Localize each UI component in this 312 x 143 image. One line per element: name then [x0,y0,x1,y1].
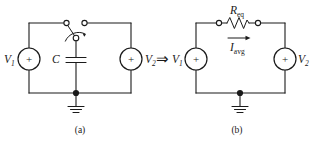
panel-b: Req Iavg + V1 + [172,4,309,136]
implies-arrow: ⇒ [156,51,169,67]
polarity-plus-v1-b: + [193,53,199,65]
current-arrow-head [246,36,251,40]
caption-panel-a: (a) [75,125,86,136]
circuit-diagram-svg: + V1 + V2 C (a) ⇒ [0,0,312,143]
label-v1-b: V1 [172,53,183,68]
caption-panel-b: (b) [231,125,242,136]
resistor-left-terminal[interactable] [216,20,221,25]
label-v2-a: V2 [145,53,156,68]
label-current-iavg: Iavg [229,41,245,56]
polarity-plus-v2-a: + [128,53,134,65]
resistor-zigzag-req [227,18,249,29]
switch-throw-terminal[interactable] [82,20,87,25]
label-v2-b: V2 [298,53,309,68]
polarity-plus-v1-a: + [26,53,32,65]
label-v1-a: V1 [4,53,15,68]
label-resistor-req: Req [229,4,244,19]
switch-pole-terminal[interactable] [64,20,69,25]
label-capacitor-c: C [52,53,60,65]
figure-root: + V1 + V2 C (a) ⇒ [0,0,312,143]
switch-common-terminal[interactable] [73,35,79,41]
resistor-right-terminal[interactable] [255,20,260,25]
panel-a: + V1 + V2 C (a) [4,20,156,136]
polarity-plus-v2-b: + [282,53,288,65]
